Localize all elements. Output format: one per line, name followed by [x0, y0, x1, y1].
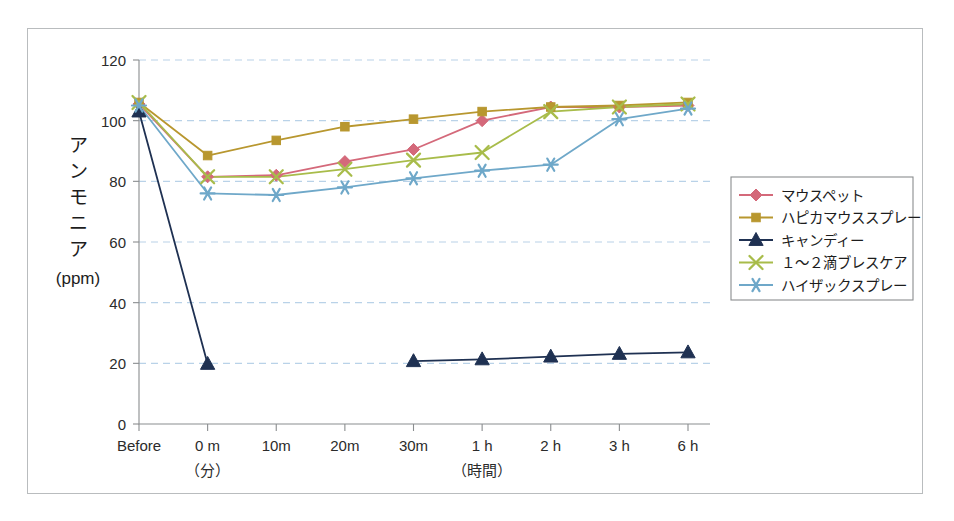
y-axis-title-unit: (ppm) — [56, 269, 100, 288]
marker-square — [752, 213, 761, 222]
xtick-label-5: 1 h — [472, 437, 493, 454]
y-axis-title-char-4: ア — [69, 239, 88, 260]
marker-diamond-shape — [408, 143, 420, 155]
x-group-label-1: （時間） — [452, 462, 512, 479]
marker-asterisk-shape — [269, 189, 283, 201]
marker-triangle-shape — [612, 346, 626, 359]
marker-square-shape — [203, 151, 212, 160]
axes — [133, 60, 710, 431]
marker-square-shape — [409, 115, 418, 124]
marker-triangle — [612, 346, 626, 359]
marker-asterisk — [201, 187, 215, 199]
y-axis-title: アンモニア(ppm) — [56, 135, 100, 288]
marker-diamond — [476, 115, 488, 127]
legend-label-3: １〜２滴ブレスケア — [781, 254, 907, 271]
marker-diamond — [408, 143, 420, 155]
xtick-label-8: 6 h — [678, 437, 699, 454]
marker-asterisk — [475, 165, 489, 177]
ytick-label-20: 20 — [109, 355, 126, 372]
marker-square — [341, 122, 350, 131]
ytick-label-80: 80 — [109, 173, 126, 190]
marker-square — [272, 136, 281, 145]
marker-square-shape — [478, 107, 487, 116]
series-markers-0 — [133, 98, 694, 183]
ytick-label-0: 0 — [118, 416, 126, 433]
marker-asterisk-shape — [475, 165, 489, 177]
marker-triangle — [406, 354, 420, 367]
legend-label-2: キャンディー — [781, 232, 864, 249]
chart-svg: 020406080100120Before0 m10m20m30m1 h2 h3… — [0, 0, 954, 521]
xtick-label-6: 2 h — [540, 437, 561, 454]
x-group-label-0: （分） — [185, 462, 230, 479]
marker-square-shape — [272, 136, 281, 145]
ytick-label-120: 120 — [101, 52, 126, 69]
series-group — [132, 96, 695, 369]
marker-asterisk-shape — [407, 172, 421, 184]
marker-diamond-shape — [476, 115, 488, 127]
marker-triangle-shape — [406, 354, 420, 367]
marker-square-shape — [752, 213, 761, 222]
series-markers-3 — [133, 96, 695, 183]
ytick-label-100: 100 — [101, 113, 126, 130]
marker-asterisk-shape — [338, 181, 352, 193]
marker-asterisk — [269, 189, 283, 201]
marker-square — [478, 107, 487, 116]
y-axis-title-char-3: ニ — [69, 213, 88, 234]
legend: マウスペットハピカマウススプレーキャンディー１〜２滴ブレスケアハイザックスプレー — [731, 177, 921, 300]
marker-asterisk-shape — [201, 187, 215, 199]
y-axis-title-char-2: モ — [69, 187, 88, 208]
y-axis-title-char-1: ン — [69, 161, 88, 182]
xtick-label-7: 3 h — [609, 437, 630, 454]
marker-triangle — [681, 345, 695, 358]
xtick-label-2: 10m — [262, 437, 291, 454]
legend-label-0: マウスペット — [781, 188, 864, 204]
series-3 — [139, 102, 688, 176]
ytick-label-40: 40 — [109, 295, 126, 312]
marker-triangle-shape — [681, 345, 695, 358]
marker-asterisk — [407, 172, 421, 184]
legend-label-4: ハイザックスプレー — [781, 278, 907, 294]
legend-label-1: ハピカマウススプレー — [781, 210, 921, 226]
marker-square-shape — [341, 122, 350, 131]
series-line-3-seg0 — [139, 102, 688, 176]
marker-square — [409, 115, 418, 124]
xtick-label-3: 20m — [330, 437, 359, 454]
ytick-label-60: 60 — [109, 234, 126, 251]
xtick-label-0: Before — [117, 437, 161, 454]
xtick-label-4: 30m — [399, 437, 428, 454]
tick-labels: 020406080100120Before0 m10m20m30m1 h2 h3… — [101, 52, 698, 479]
xtick-label-1: 0 m — [195, 437, 220, 454]
y-axis-title-char-0: ア — [69, 135, 88, 156]
marker-asterisk — [338, 181, 352, 193]
marker-square — [203, 151, 212, 160]
line-chart: 020406080100120Before0 m10m20m30m1 h2 h3… — [0, 0, 954, 521]
